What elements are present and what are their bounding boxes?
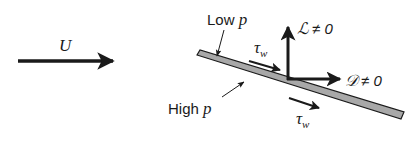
freestream-velocity: U	[18, 36, 113, 61]
low-pressure-label: Low p	[207, 10, 247, 56]
lift-force: ℒ≠ 0	[288, 19, 333, 80]
high-label-text: High	[168, 100, 199, 117]
svg-text:τw: τw	[296, 109, 310, 130]
lift-symbol: ℒ	[297, 19, 309, 38]
svg-text:High p: High p	[168, 99, 212, 118]
svg-text:τw: τw	[254, 38, 268, 59]
freestream-label: U	[59, 36, 73, 55]
high-p-var: p	[202, 99, 212, 118]
shear-stress-bottom: τw	[289, 98, 319, 130]
flat-plate-diagram: U Low p High p τw ℒ≠ 0 𝒟≠ 0 τw	[0, 0, 408, 143]
low-pressure-pointer	[217, 30, 224, 56]
high-pressure-pointer	[222, 82, 244, 97]
shear-bottom-arrow	[289, 98, 319, 108]
tau-bottom-subscript: w	[302, 118, 310, 130]
low-p-var: p	[238, 10, 248, 29]
drag-symbol: 𝒟	[345, 71, 361, 90]
svg-text:𝒟≠ 0: 𝒟≠ 0	[345, 71, 382, 90]
low-label-text: Low	[207, 11, 235, 28]
lift-relation: ≠ 0	[312, 20, 333, 37]
svg-text:Low p: Low p	[207, 10, 247, 29]
shear-stress-top: τw	[249, 38, 280, 70]
drag-relation: ≠ 0	[361, 72, 382, 89]
svg-text:ℒ≠ 0: ℒ≠ 0	[297, 19, 333, 38]
high-pressure-label: High p	[168, 82, 244, 118]
tau-top-subscript: w	[260, 47, 268, 59]
